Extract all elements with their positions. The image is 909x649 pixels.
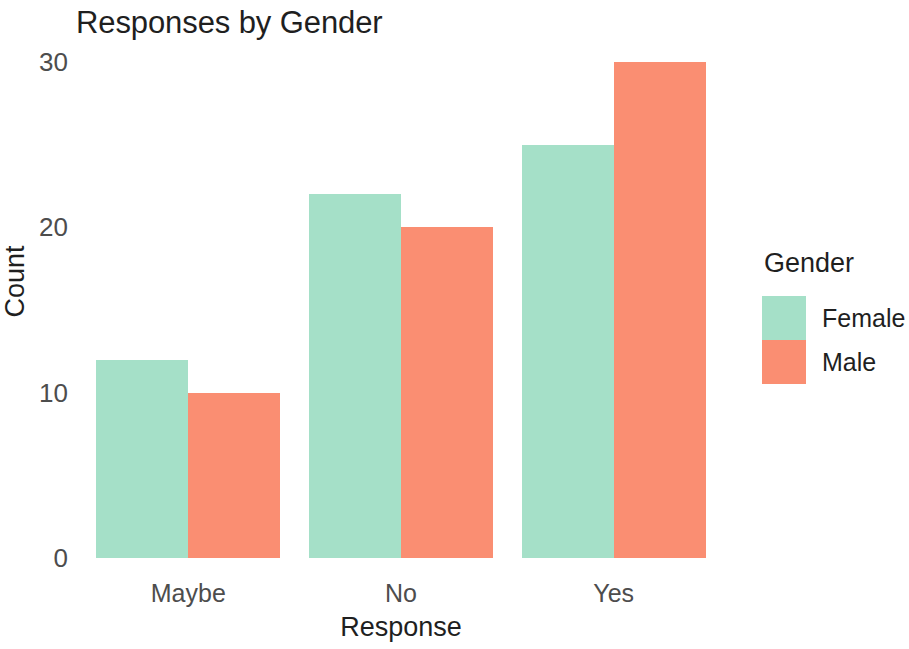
x-tick-label-yes: Yes xyxy=(507,578,720,608)
chart-container: Responses by Gender 0102030 Count MaybeN… xyxy=(0,0,909,649)
legend-item-male: Male xyxy=(762,340,909,384)
y-tick-label: 10 xyxy=(39,380,68,406)
x-axis-title: Response xyxy=(82,612,720,642)
x-tick-label-no: No xyxy=(295,578,508,608)
bar-yes-female xyxy=(522,145,614,558)
y-axis-title: Count xyxy=(2,227,29,337)
plot-panel xyxy=(82,62,720,558)
bars-layer xyxy=(82,62,720,558)
bar-maybe-female xyxy=(96,360,188,558)
legend-items: FemaleMale xyxy=(762,296,909,384)
x-axis-ticks: MaybeNoYes xyxy=(82,578,720,610)
y-tick-label: 20 xyxy=(39,214,68,240)
x-tick-label-maybe: Maybe xyxy=(82,578,295,608)
legend: Gender FemaleMale xyxy=(762,248,909,384)
legend-label-male: Male xyxy=(822,349,876,375)
bar-maybe-male xyxy=(188,393,280,558)
bar-yes-male xyxy=(614,62,706,558)
legend-label-female: Female xyxy=(822,305,905,331)
y-tick-label: 0 xyxy=(54,545,68,571)
legend-swatch-male xyxy=(762,340,806,384)
legend-swatch-female xyxy=(762,296,806,340)
bar-no-male xyxy=(401,227,493,558)
chart-title: Responses by Gender xyxy=(76,4,383,42)
bar-no-female xyxy=(309,194,401,558)
legend-item-female: Female xyxy=(762,296,909,340)
y-tick-label: 30 xyxy=(39,49,68,75)
legend-title: Gender xyxy=(764,248,909,278)
